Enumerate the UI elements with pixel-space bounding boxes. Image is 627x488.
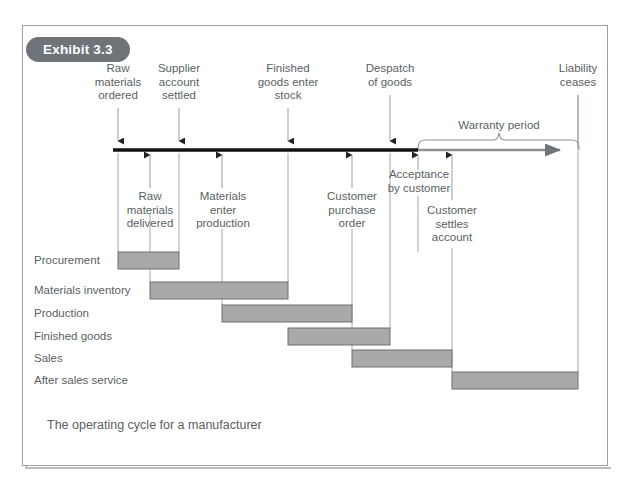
warranty-period-label: Warranty period (434, 119, 564, 131)
event-label-acceptance-by-customer: Acceptance by customer (382, 168, 456, 195)
gantt-bar (118, 252, 179, 269)
gantt-bar (222, 305, 352, 322)
row-label-materials-inventory: Materials inventory (34, 283, 131, 297)
row-label-finished-goods: Finished goods (34, 329, 112, 343)
exhibit-caption: The operating cycle for a manufacturer (47, 418, 262, 432)
exhibit-figure: Exhibit 3.3 (0, 0, 627, 488)
warranty-period-brace (418, 133, 579, 150)
row-label-production: Production (34, 306, 89, 320)
event-label-raw-materials-delivered: Raw materials delivered (120, 190, 180, 231)
event-label-customer-settles-account: Customer settles account (416, 204, 488, 245)
event-label-raw-materials-ordered: Raw materials ordered (86, 62, 150, 103)
event-label-finished-goods-enter-stock: Finished goods enter stock (248, 62, 328, 103)
gantt-bar (352, 350, 452, 367)
row-label-sales: Sales (34, 351, 63, 365)
event-label-despatch-of-goods: Despatch of goods (350, 62, 430, 89)
row-label-after-sales-service: After sales service (34, 373, 128, 387)
row-label-procurement: Procurement (34, 253, 100, 267)
event-label-materials-enter-production: Materials enter production (188, 190, 258, 231)
gantt-bar (452, 372, 578, 389)
event-label-customer-purchase-order: Customer purchase order (315, 190, 389, 231)
event-label-liability-ceases: Liability ceases (546, 62, 610, 89)
gantt-bar (150, 282, 288, 299)
event-label-supplier-account-settled: Supplier account settled (147, 62, 211, 103)
gantt-bar (288, 328, 390, 345)
gantt-bars (118, 252, 578, 389)
